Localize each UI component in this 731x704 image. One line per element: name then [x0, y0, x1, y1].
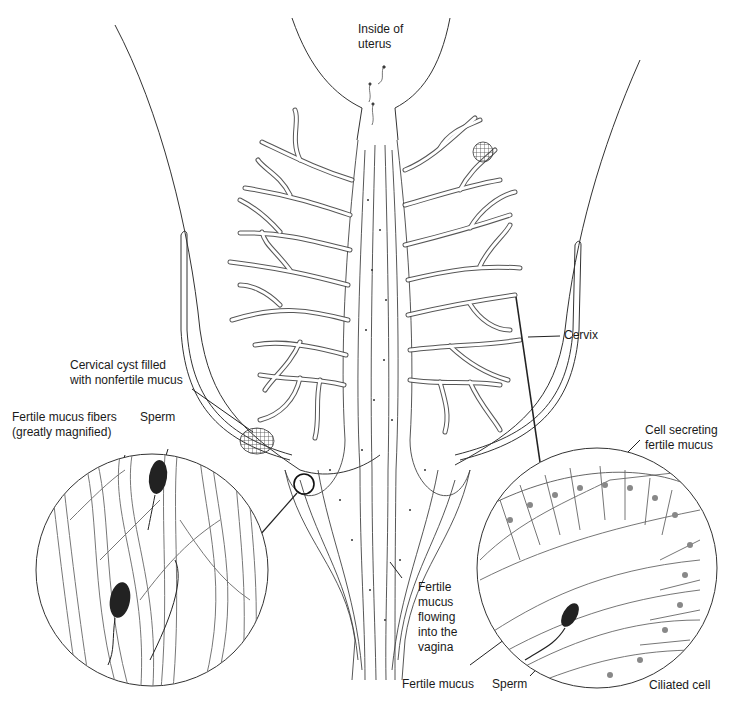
crypt-branches-left	[230, 110, 352, 438]
crypt-branches-right	[405, 118, 520, 432]
label-cervical-cyst: Cervical cyst filled with nonfertile muc…	[70, 358, 183, 388]
label-fertile-mucus-flowing: Fertile mucus flowing into the vagina	[418, 580, 457, 655]
fibers-magnified-circle	[36, 454, 268, 700]
cervix-diagram: Inside of uterus Cervix Cervical cyst fi…	[0, 0, 731, 704]
label-fertile-mucus: Fertile mucus	[402, 677, 474, 692]
illustration	[0, 0, 731, 704]
cells-magnified-circle	[477, 448, 717, 690]
label-sperm-right: Sperm	[492, 677, 527, 692]
label-cell-secreting: Cell secreting fertile mucus	[645, 423, 718, 453]
sperm-in-uterus	[369, 66, 386, 125]
label-fertile-mucus-fibers: Fertile mucus fibers (greatly magnified)	[12, 410, 117, 440]
magnify-marker	[294, 474, 314, 494]
cervix-outline	[115, 25, 640, 474]
label-cervix: Cervix	[564, 328, 598, 343]
label-sperm-left: Sperm	[140, 410, 175, 425]
label-ciliated-cell: Ciliated cell	[649, 678, 710, 693]
cervical-cyst	[240, 428, 274, 454]
label-inside-of-uterus: Inside of uterus	[358, 22, 403, 52]
cyst-top-right	[473, 142, 493, 162]
